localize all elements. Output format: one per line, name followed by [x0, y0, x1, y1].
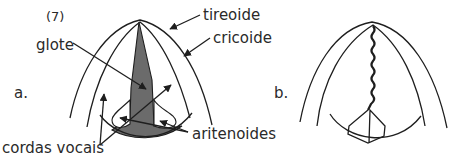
aritenoide-left	[112, 100, 130, 127]
glote-label: glote	[36, 36, 74, 54]
panel-b: b.	[274, 22, 447, 143]
tireoide-label: tireoide	[203, 6, 260, 24]
larynx-diagram: (7) a. glote tireoide cricoide cordas vo…	[0, 0, 452, 158]
figure-number: (7)	[46, 9, 64, 24]
cricoide-base-b	[330, 114, 421, 138]
cordas-vocais-label: cordas vocais	[2, 139, 104, 157]
closed-glottis-line	[368, 26, 375, 110]
aritenoide-right	[154, 100, 176, 128]
panel-a: (7) a. glote tireoide cricoide cordas vo…	[2, 6, 276, 157]
panel-b-label: b.	[274, 84, 288, 102]
cricoide-arrow	[184, 38, 210, 56]
tireoide-arrow	[170, 15, 200, 29]
cricoide-label: cricoide	[213, 29, 272, 47]
panel-a-label: a.	[14, 84, 28, 102]
aritenoides-label: aritenoides	[192, 125, 276, 143]
